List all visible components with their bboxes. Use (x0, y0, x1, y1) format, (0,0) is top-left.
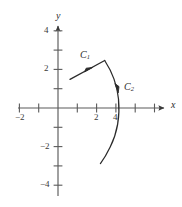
x-tick-label-4: 4 (113, 113, 118, 122)
curve-label-c1-subscript: 1 (87, 53, 90, 60)
curve-label-c2-subscript: 2 (131, 85, 134, 92)
y-tick-label-2: 2 (44, 64, 49, 73)
y-axis-label: y (56, 11, 60, 21)
curve-c1 (70, 61, 105, 80)
curve-label-c1-text: C (80, 49, 87, 60)
c1-direction-arrow (85, 68, 93, 72)
plot-canvas (0, 0, 182, 207)
curve-label-c1: C1 (80, 50, 90, 61)
y-tick-label-neg4: −4 (40, 180, 50, 189)
x-tick-label-neg2: −2 (15, 113, 25, 122)
x-tick-label-2: 2 (94, 113, 99, 122)
math-figure: x y −2 2 4 4 2 −2 −4 C1 C2 (0, 0, 182, 207)
x-axis-label: x (171, 100, 175, 110)
curve-label-c2: C2 (124, 82, 134, 93)
curve-label-c2-text: C (124, 81, 131, 92)
y-tick-label-4: 4 (44, 26, 49, 35)
y-tick-label-neg2: −2 (40, 142, 50, 151)
